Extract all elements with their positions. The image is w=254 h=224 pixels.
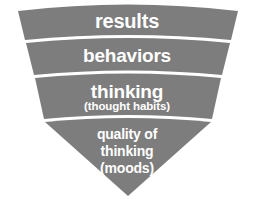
funnel-band-behaviors — [26, 38, 230, 75]
funnel-diagram: results behaviors thinking (thought habi… — [0, 0, 254, 224]
funnel-band-quality-of-thinking — [45, 118, 211, 196]
funnel-band-results — [18, 5, 238, 41]
funnel-shape-graphic — [0, 0, 254, 224]
funnel-band-thinking — [35, 74, 221, 120]
